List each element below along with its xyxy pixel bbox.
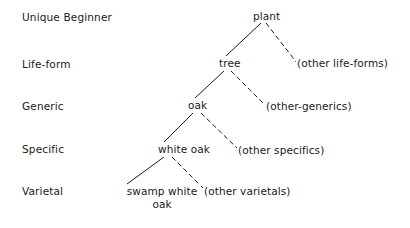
edge-white-oak-to-swamp-white-oak [127,157,164,184]
node-other-life-forms: (other life-forms) [296,57,389,69]
node-other-generics: (other-generics) [265,100,353,112]
rank-label-generic: Generic [22,100,64,112]
taxonomic-hierarchy-diagram: Unique BeginnerLife-formGenericSpecificV… [0,0,410,228]
node-other-varietals: (other varietals) [203,185,291,197]
edge-plant-to-tree [226,23,261,56]
rank-label-unique-beginner: Unique Beginner [22,11,112,23]
edge-tree-to-oak [195,71,224,98]
edge-tree-to-other-generics [231,71,267,107]
rank-label-specific: Specific [22,143,64,155]
node-swamp-white-oak: swamp white oak [123,185,201,211]
node-plant: plant [252,10,281,22]
node-tree: tree [218,57,242,69]
node-other-specifics: (other specifics) [237,144,325,156]
node-oak: oak [187,99,208,111]
rank-label-varietal: Varietal [22,185,63,197]
edge-oak-to-white-oak [164,113,193,142]
node-white-oak: white oak [157,143,211,155]
rank-label-life-form: Life-form [22,58,71,70]
edge-plant-to-other-life-forms [266,23,297,63]
